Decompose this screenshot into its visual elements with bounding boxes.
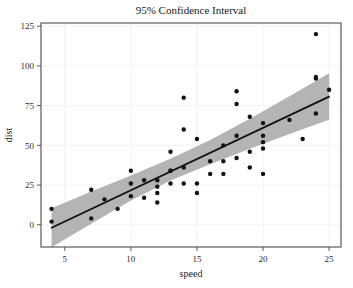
data-point [155, 200, 159, 204]
data-point [155, 178, 159, 182]
data-point [129, 169, 133, 173]
data-point [182, 95, 186, 99]
data-point [102, 197, 106, 201]
data-point [195, 181, 199, 185]
data-point [168, 169, 172, 173]
x-tick-label: 10 [126, 254, 136, 264]
data-point [49, 207, 53, 211]
data-point [155, 191, 159, 195]
data-point [221, 143, 225, 147]
data-point [208, 159, 212, 163]
data-point [49, 219, 53, 223]
data-point [234, 89, 238, 93]
data-point [261, 121, 265, 125]
data-point [234, 156, 238, 160]
y-tick-label: 25 [25, 180, 35, 190]
y-tick-label: 0 [30, 220, 35, 230]
data-point [327, 88, 331, 92]
x-tick-label: 5 [63, 254, 68, 264]
data-point [261, 146, 265, 150]
data-point [129, 181, 133, 185]
y-axis-label: dist [3, 128, 14, 143]
data-point [142, 196, 146, 200]
data-point [142, 178, 146, 182]
data-point [234, 134, 238, 138]
x-axis-label: speed [180, 268, 203, 279]
data-point [89, 216, 93, 220]
y-tick-label: 100 [21, 61, 35, 71]
data-point [300, 137, 304, 141]
data-point [195, 137, 199, 141]
data-point [129, 194, 133, 198]
data-point [182, 181, 186, 185]
x-axis-ticks: 510152025 [63, 247, 335, 264]
x-tick-label: 15 [192, 254, 202, 264]
chart-title: 95% Confidence Interval [136, 4, 247, 16]
data-point [155, 184, 159, 188]
data-point [168, 181, 172, 185]
data-point [182, 127, 186, 131]
data-point [261, 172, 265, 176]
data-point [261, 134, 265, 138]
data-point [261, 140, 265, 144]
chart-figure: 510152025 0255075100125 95% Confidence I… [0, 0, 353, 288]
data-point [314, 32, 318, 36]
data-point [287, 118, 291, 122]
data-point [221, 159, 225, 163]
data-point [182, 165, 186, 169]
data-point [89, 188, 93, 192]
data-point [314, 111, 318, 115]
data-point [248, 165, 252, 169]
y-tick-label: 75 [25, 101, 35, 111]
scatter-plot-canvas: 510152025 0255075100125 95% Confidence I… [0, 0, 353, 288]
y-tick-label: 125 [21, 21, 35, 31]
data-point [234, 102, 238, 106]
x-tick-label: 20 [259, 254, 269, 264]
data-point [208, 172, 212, 176]
y-tick-label: 50 [25, 141, 35, 151]
x-tick-label: 25 [325, 254, 335, 264]
y-axis-ticks: 0255075100125 [21, 21, 42, 230]
data-point [195, 191, 199, 195]
data-point [115, 207, 119, 211]
data-point [248, 149, 252, 153]
data-point [314, 75, 318, 79]
data-point [168, 149, 172, 153]
data-point [221, 172, 225, 176]
data-point [248, 115, 252, 119]
